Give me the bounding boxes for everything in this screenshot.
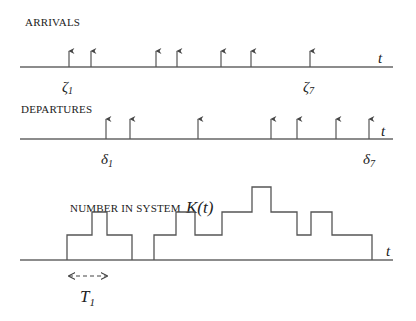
arrivals-title: ARRIVALS xyxy=(25,16,80,28)
departures-panel: DEPARTURES t δ1 δ7 xyxy=(20,103,393,169)
departures-title: DEPARTURES xyxy=(21,103,92,115)
number-in-system-panel: NUMBER IN SYSTEM K(t) t xyxy=(20,187,393,260)
svg-text:δ1: δ1 xyxy=(101,151,113,169)
svg-text:ζ7: ζ7 xyxy=(303,79,315,96)
departure-last-label: δ7 xyxy=(363,151,376,169)
svg-text:ζ1: ζ1 xyxy=(62,79,73,96)
busy-period-label: T1 xyxy=(80,287,95,308)
arrivals-panel: ARRIVALS t ζ1 ζ7 xyxy=(20,16,393,96)
svg-text:δ7: δ7 xyxy=(363,151,376,169)
queue-timing-diagram: ARRIVALS t ζ1 ζ7 DEPARTURES t δ1 δ7 xyxy=(0,0,416,321)
k-axis-label: t xyxy=(386,243,391,259)
arrival-first-label: ζ1 xyxy=(62,79,73,96)
departures-axis-label: t xyxy=(381,123,386,139)
arrival-arrows xyxy=(69,51,310,67)
k-of-t-label: K(t) xyxy=(185,198,214,217)
busy-period-annotation: T1 xyxy=(69,276,107,308)
k-step-function xyxy=(67,187,372,260)
busy-period-1-steps xyxy=(67,212,132,260)
departure-first-label: δ1 xyxy=(101,151,113,169)
departure-arrows xyxy=(106,119,369,139)
arrivals-axis-label: t xyxy=(378,50,383,66)
arrival-last-label: ζ7 xyxy=(303,79,315,96)
number-in-system-title: NUMBER IN SYSTEM xyxy=(70,202,181,214)
